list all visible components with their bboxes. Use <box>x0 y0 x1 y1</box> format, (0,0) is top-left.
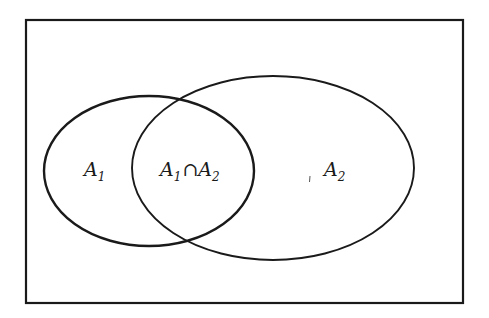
stray-mark <box>310 176 311 182</box>
set-a1-ellipse <box>44 96 254 246</box>
label-a2-only: A2 <box>322 158 345 184</box>
venn-diagram: A1 A1∩A2 A2 <box>0 0 489 318</box>
set-a2-ellipse <box>132 76 414 260</box>
label-intersection: A1∩A2 <box>158 158 220 184</box>
label-a1-only: A1 <box>82 158 105 184</box>
